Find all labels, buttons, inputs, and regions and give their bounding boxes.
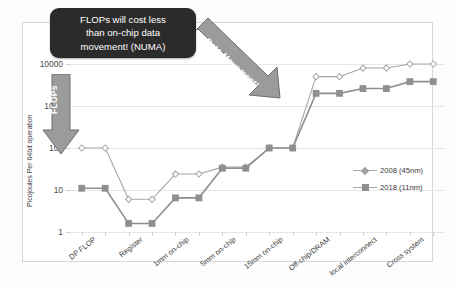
x-axis-label: DP FLOP [67,235,97,261]
data-point-marker [125,220,132,227]
data-point-marker [289,145,296,152]
x-tick-mark [105,232,106,236]
data-point-marker [102,145,108,151]
x-tick-mark [129,232,130,236]
x-tick-mark [293,232,294,236]
x-axis-label: 5mm on-chip [199,235,238,268]
x-axis-label: Cross system [385,235,426,270]
x-tick-mark [152,232,153,236]
data-point-marker [172,194,179,201]
data-point-marker [242,165,249,172]
ytick-label-10000: 10000 [3,64,63,74]
callout-box: FLOPs will cost less than on-chip data m… [50,8,196,58]
legend-diamond-marker-icon [353,166,377,176]
data-point-marker [196,171,202,177]
data-point-marker [360,65,366,71]
data-point-marker [78,185,85,192]
data-point-marker [313,74,319,80]
flops-arrow-label: FLOPs [49,85,59,114]
x-tick-mark [199,232,200,236]
data-point-marker [360,85,367,92]
x-tick-mark [316,232,317,236]
gridline-1 [70,232,445,233]
ytick-label-10: 10 [3,190,63,200]
x-tick-mark [246,232,247,236]
data-point-marker [406,78,413,85]
x-tick-mark [269,232,270,236]
data-point-marker [383,85,390,92]
data-point-marker [266,145,273,152]
data-point-marker [102,185,109,192]
data-point-marker [383,65,389,71]
legend-label-2018: 2018 (11nm) [380,183,423,192]
legend-item-2018[interactable]: 2018 (11nm) [353,179,453,196]
x-axis-label: Off-chip/DRAM [287,235,332,273]
chart-page: Picojoules Per 64bit operation 10000 100… [0,0,455,291]
data-point-marker [313,90,320,97]
flops-arrow: FLOPs [43,74,83,156]
callout-text: FLOPs will cost less than on-chip data m… [80,13,166,54]
data-point-marker [407,61,413,67]
data-point-marker [196,194,203,201]
x-tick-mark [82,232,83,236]
data-point-marker [219,165,226,172]
x-axis-label: 1mm on-chip [152,235,191,268]
data-point-marker [125,196,131,202]
ytick-mark-1 [66,232,70,233]
y-axis-title: Picojoules Per 64bit operation [25,37,39,207]
chart-legend: 2008 (45nm) 2018 (11nm) [353,162,453,196]
x-tick-mark [363,232,364,236]
x-axis-label: Register [117,235,144,259]
data-point-marker [336,90,343,97]
legend-label-2008: 2008 (45nm) [380,166,423,175]
data-movement-arrow-icon [196,18,306,110]
x-tick-mark [175,232,176,236]
x-axis-label: 15mm on-chip [242,235,284,271]
x-tick-mark [386,232,387,236]
legend-item-2008[interactable]: 2008 (45nm) [353,162,453,179]
x-tick-mark [222,232,223,236]
data-point-marker [430,61,436,67]
x-tick-mark [433,232,434,236]
data-movement-arrow: Data Movement! [196,18,306,110]
data-point-marker [430,78,437,85]
x-tick-mark [410,232,411,236]
ytick-label-1: 1 [3,232,63,242]
data-point-marker [149,220,156,227]
x-tick-mark [340,232,341,236]
data-point-marker [336,74,342,80]
legend-square-marker-icon [353,183,377,193]
x-axis-label: local interconnect [328,235,379,278]
